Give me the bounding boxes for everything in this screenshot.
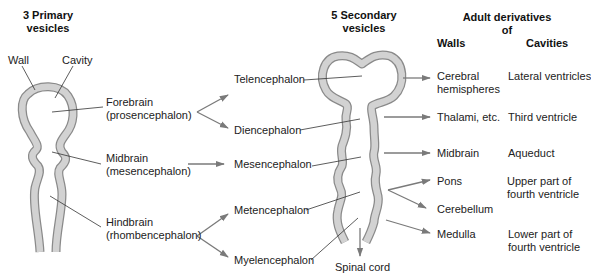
header-secondary-vesicles: 5 Secondary vesicles — [324, 9, 404, 35]
forebrain-term: (prosencephalon) — [106, 109, 192, 122]
label-third-ventricle: Third ventricle — [508, 111, 577, 124]
label-lateral-ventricles: Lateral ventricles — [508, 70, 591, 83]
label-midbrain-primary: Midbrain (mesencephalon) — [106, 152, 191, 178]
header-primary-vesicles: 3 Primary vesicles — [12, 9, 84, 35]
label-spinal-cord: Spinal cord — [335, 261, 390, 274]
brain-vesicle-diagram: 3 Primary vesicles 5 Secondary vesicles … — [0, 0, 591, 279]
forebrain-name: Forebrain — [106, 96, 192, 109]
label-telencephalon: Telencephalon — [234, 73, 305, 86]
cerebral-line1: Cerebral — [437, 70, 500, 83]
header-adult-derivatives: Adult derivatives of — [452, 11, 562, 37]
label-hindbrain: Hindbrain (rhombencephalon) — [106, 216, 201, 242]
hindbrain-name: Hindbrain — [106, 216, 201, 229]
cerebral-line2: hemispheres — [437, 83, 500, 96]
midbrain-term: (mesencephalon) — [106, 165, 191, 178]
label-medulla: Medulla — [437, 228, 476, 241]
label-mesencephalon: Mesencephalon — [234, 158, 312, 171]
hindbrain-term: (rhombencephalon) — [106, 229, 201, 242]
secondary-vesicle-tube — [322, 55, 401, 242]
upper-fourth-line2: fourth ventricle — [507, 188, 579, 201]
label-wall: Wall — [8, 54, 29, 67]
label-upper-fourth-ventricle: Upper part of fourth ventricle — [507, 175, 579, 201]
header-secondary-line2: vesicles — [324, 22, 404, 35]
upper-fourth-line1: Upper part of — [507, 175, 579, 188]
header-adult-line2: of — [452, 24, 562, 37]
header-primary-line2: vesicles — [12, 22, 84, 35]
lower-fourth-line2: fourth ventricle — [508, 241, 580, 254]
label-aqueduct: Aqueduct — [508, 147, 554, 160]
diagram-graphics — [0, 0, 591, 279]
label-midbrain-adult: Midbrain — [437, 147, 479, 160]
label-metencephalon: Metencephalon — [234, 204, 309, 217]
label-cerebellum: Cerebellum — [437, 203, 493, 216]
primary-vesicle-tube — [22, 87, 73, 252]
label-thalami: Thalami, etc. — [437, 111, 500, 124]
header-walls: Walls — [437, 37, 465, 50]
header-primary-line1: 3 Primary — [12, 9, 84, 22]
label-cerebral-hemispheres: Cerebral hemispheres — [437, 70, 500, 96]
label-lower-fourth-ventricle: Lower part of fourth ventricle — [508, 228, 580, 254]
label-diencephalon: Diencephalon — [234, 124, 301, 137]
lower-fourth-line1: Lower part of — [508, 228, 580, 241]
header-cavities: Cavities — [526, 37, 568, 50]
label-cavity: Cavity — [62, 54, 93, 67]
midbrain-name: Midbrain — [106, 152, 191, 165]
label-pons: Pons — [437, 175, 462, 188]
header-adult-line1: Adult derivatives — [452, 11, 562, 24]
label-myelencephalon: Myelencephalon — [234, 254, 314, 267]
label-forebrain: Forebrain (prosencephalon) — [106, 96, 192, 122]
header-secondary-line1: 5 Secondary — [324, 9, 404, 22]
